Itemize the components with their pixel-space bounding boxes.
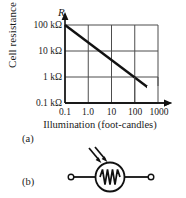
figure-photoresistor: R Cell resistance 0.1 kΩ 1 kΩ 10 kΩ 100 … <box>0 0 186 198</box>
terminal-right <box>148 174 154 180</box>
schematic-panel-b <box>0 144 186 198</box>
terminal-left <box>68 174 74 180</box>
chart-panel-a: R Cell resistance 0.1 kΩ 1 kΩ 10 kΩ 100 … <box>0 0 186 140</box>
x-tick-label-0: 0.1 <box>59 107 71 117</box>
light-arrow-1 <box>89 148 101 163</box>
x-tick-label-3: 100 <box>128 107 142 117</box>
panel-label-b: (b) <box>22 176 34 188</box>
circle-enclosure <box>96 163 125 192</box>
photoresistor-symbol-svg <box>0 144 186 198</box>
x-tick-label-4: 1000 <box>150 107 169 117</box>
x-tick-label-2: 10 <box>107 107 117 117</box>
x-axis-title: Illumination (foot-candles) <box>0 119 186 131</box>
x-tick-label-1: 1.0 <box>82 107 94 117</box>
